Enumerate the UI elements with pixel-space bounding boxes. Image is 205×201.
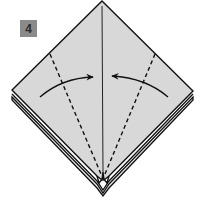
step-number-badge: 4 [20,20,37,37]
step-number: 4 [25,22,32,36]
